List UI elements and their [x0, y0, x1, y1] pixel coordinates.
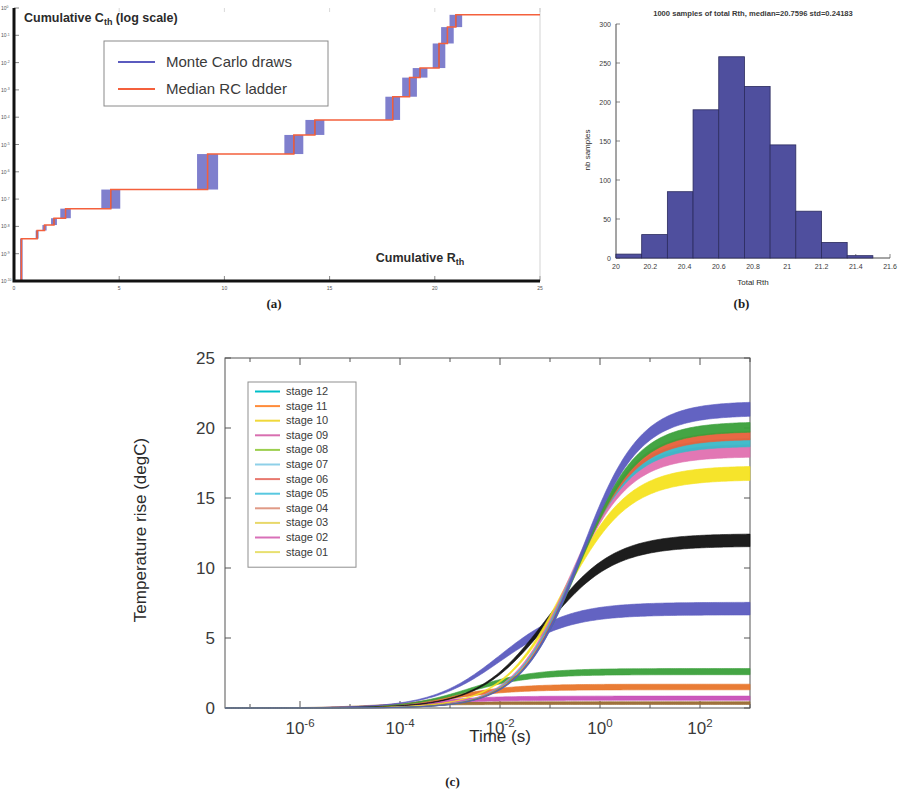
- panel-b-bar: [616, 254, 642, 258]
- panel-c-legend-label: stage 04: [286, 502, 328, 514]
- panel-b-bar: [822, 242, 848, 258]
- panel-a-xtick-label: 25: [537, 285, 543, 291]
- panel-c-legend-label: stage 12: [286, 385, 328, 397]
- panel-c-legend-label: stage 06: [286, 473, 328, 485]
- panel-b-bar: [719, 57, 745, 258]
- panel-b-bar: [642, 235, 668, 258]
- panel-b-xtick-label: 20.8: [746, 263, 760, 270]
- panel-c-ytick-label: 20: [196, 419, 215, 438]
- panel-b-xtick-label: 20.2: [643, 263, 657, 270]
- panel-b-bar: [847, 256, 873, 258]
- panel-c-ytick-label: 25: [196, 349, 215, 368]
- panel-c-ytick-label: 0: [206, 699, 215, 718]
- panel-c-legend-label: stage 03: [286, 516, 328, 528]
- panel-c-legend-label: stage 07: [286, 458, 328, 470]
- panel-c-legend-label: stage 08: [286, 443, 328, 455]
- panel-b-plot: 1000 samples of total Rth, median=20.759…: [578, 0, 905, 292]
- panel-c-ytick-label: 5: [206, 629, 215, 648]
- panel-a-legend-label-1: Median RC ladder: [166, 80, 287, 97]
- panel-b-bar: [744, 86, 770, 258]
- panel-b-xtick-label: 21.4: [849, 263, 863, 270]
- panel-c-legend-label: stage 09: [286, 429, 328, 441]
- caption-c: (c): [120, 774, 785, 790]
- panel-c-legend: stage 12stage 11stage 10stage 09stage 08…: [248, 382, 356, 567]
- panel-b-xlabel: Total Rth: [737, 278, 769, 287]
- panel-b-ytick-label: 50: [603, 216, 611, 223]
- panel-a-legend: Monte Carlo draws Median RC ladder: [104, 41, 328, 106]
- panel-c: 051015202510-610-410-2100102 Time (s) Te…: [120, 330, 785, 770]
- panel-c-plot: 051015202510-610-410-2100102 Time (s) Te…: [120, 330, 785, 770]
- panel-b-ytick-label: 0: [607, 255, 611, 262]
- panel-b-ytick-label: 250: [599, 60, 611, 67]
- panel-a-plot: 10-1010-910-810-710-610-510-410-310-210-…: [0, 0, 548, 292]
- panel-b-xtick-label: 20: [612, 263, 620, 270]
- panel-b-xtick-label: 21.6: [883, 263, 897, 270]
- caption-a: (a): [0, 296, 548, 312]
- panel-c-legend-label: stage 01: [286, 546, 328, 558]
- panel-b-xtick-label: 21: [783, 263, 791, 270]
- panel-b-ylabel: nb samples: [583, 130, 592, 171]
- panel-b-ytick-label: 300: [599, 21, 611, 28]
- panel-b-ytick-label: 200: [599, 99, 611, 106]
- panel-c-ytick-label: 10: [196, 559, 215, 578]
- panel-b-xtick-label: 20.4: [678, 263, 692, 270]
- panel-a-xtick-label: 5: [118, 285, 121, 291]
- panel-b-xtick-label: 20.6: [712, 263, 726, 270]
- caption-b: (b): [578, 296, 905, 312]
- panel-b-bar: [770, 145, 796, 258]
- panel-a-xtick-label: 10: [222, 285, 228, 291]
- panel-a-xlabel: Cumulative Rth: [376, 251, 464, 267]
- panel-c-legend-label: stage 05: [286, 487, 328, 499]
- panel-c-ylabel: Temperature rise (degC): [131, 438, 150, 622]
- panel-c-xlabel: Time (s): [469, 727, 531, 746]
- panel-b-ytick-label: 100: [599, 177, 611, 184]
- panel-b-bar: [796, 211, 822, 258]
- panel-a-xtick-label: 15: [327, 285, 333, 291]
- panel-a: 10-1010-910-810-710-610-510-410-310-210-…: [0, 0, 548, 292]
- panel-a-xtick-label: 20: [432, 285, 438, 291]
- panel-b: 1000 samples of total Rth, median=20.759…: [578, 0, 905, 292]
- panel-c-legend-label: stage 11: [286, 400, 327, 412]
- panel-a-xtick-label: 0: [13, 285, 16, 291]
- panel-c-ytick-label: 15: [196, 489, 215, 508]
- panel-b-xtick-label: 21.2: [815, 263, 829, 270]
- panel-a-ylabel: Cumulative Cth (log scale): [24, 11, 178, 27]
- panel-b-bar: [693, 110, 719, 258]
- panel-b-title: 1000 samples of total Rth, median=20.759…: [653, 9, 853, 18]
- panel-b-ytick-label: 150: [599, 138, 611, 145]
- panel-a-legend-label-0: Monte Carlo draws: [166, 53, 292, 70]
- panel-b-bar: [667, 192, 693, 258]
- panel-c-legend-label: stage 02: [286, 531, 328, 543]
- panel-c-legend-label: stage 10: [286, 414, 328, 426]
